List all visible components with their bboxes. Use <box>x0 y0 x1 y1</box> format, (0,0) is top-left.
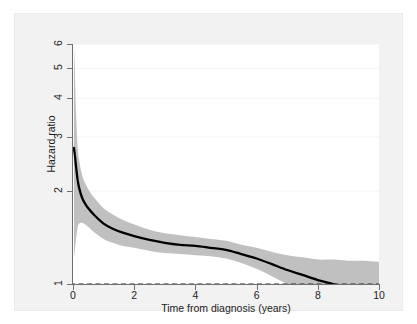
y-axis-tick <box>67 68 72 69</box>
y-axis-line <box>72 44 73 285</box>
x-axis-tick-label: 10 <box>366 289 392 301</box>
graph-region: 123456 0246810 Hazard ratio Time from di… <box>14 13 403 311</box>
x-axis-title: Time from diagnosis (years) <box>72 302 380 314</box>
y-axis-tick-label: 6 <box>52 36 64 50</box>
y-axis-tick <box>67 44 72 45</box>
plot-svg <box>73 44 379 284</box>
faint-header-text <box>0 0 417 11</box>
y-axis-title: Hazard ratio <box>45 84 57 204</box>
y-axis-tick <box>67 284 72 285</box>
x-axis-tick-label: 0 <box>60 289 86 301</box>
y-axis-tick <box>67 98 72 99</box>
y-axis-tick-label: 5 <box>52 60 64 74</box>
x-axis-tick-label: 4 <box>182 289 208 301</box>
plot-area <box>73 44 379 284</box>
confidence-band <box>74 44 379 284</box>
x-axis-tick-label: 6 <box>244 289 270 301</box>
y-axis-tick <box>67 191 72 192</box>
x-axis-tick-label: 8 <box>305 289 331 301</box>
chart-figure: 123456 0246810 Hazard ratio Time from di… <box>0 0 417 324</box>
x-axis-tick-label: 2 <box>121 289 147 301</box>
y-axis-tick-label: 1 <box>52 276 64 290</box>
x-axis-line <box>72 284 380 285</box>
y-axis-tick <box>67 137 72 138</box>
